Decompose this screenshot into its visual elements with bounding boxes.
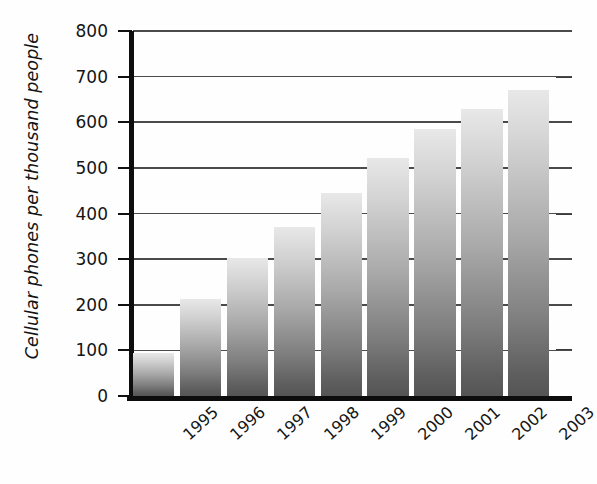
x-tick-label-2001: 2001: [462, 404, 503, 443]
bar-1996: [180, 299, 221, 396]
x-axis-tick-labels: 199519961997199819992000200120022003: [133, 404, 555, 474]
y-tick-label-700: 700: [52, 68, 108, 85]
y-axis-tick-labels: 0100200300400500600700800: [46, 0, 108, 484]
bar-1998: [274, 227, 315, 396]
bar-1995: [133, 353, 174, 396]
y-tick-label-0: 0: [52, 388, 108, 405]
x-tick-label-1996: 1996: [228, 404, 269, 443]
y-tick-label-800: 800: [52, 23, 108, 40]
bar-2002: [461, 109, 502, 396]
y-tick-label-500: 500: [52, 159, 108, 176]
bar-series: [133, 31, 555, 396]
y-tick-label-600: 600: [52, 114, 108, 131]
x-tick-label-1997: 1997: [275, 404, 316, 443]
bar-1999: [321, 193, 362, 396]
y-tick-label-400: 400: [52, 205, 108, 222]
bar-2003: [508, 90, 549, 396]
x-tick-label-2000: 2000: [415, 404, 456, 443]
y-tick-label-200: 200: [52, 296, 108, 313]
bar-2001: [414, 129, 455, 396]
x-tick-label-2002: 2002: [509, 404, 550, 443]
bar-1997: [227, 258, 268, 396]
bar-chart: Cellular phones per thousand people 0100…: [0, 0, 597, 484]
x-tick-label-1995: 1995: [181, 404, 222, 443]
y-axis-title: Cellular phones per thousand people: [19, 31, 45, 361]
x-tick-label-1998: 1998: [322, 404, 363, 443]
y-tick-label-300: 300: [52, 251, 108, 268]
bar-2000: [367, 158, 408, 396]
x-tick-label-1999: 1999: [368, 404, 409, 443]
y-tick-label-100: 100: [52, 342, 108, 359]
x-axis-line: [127, 396, 572, 401]
